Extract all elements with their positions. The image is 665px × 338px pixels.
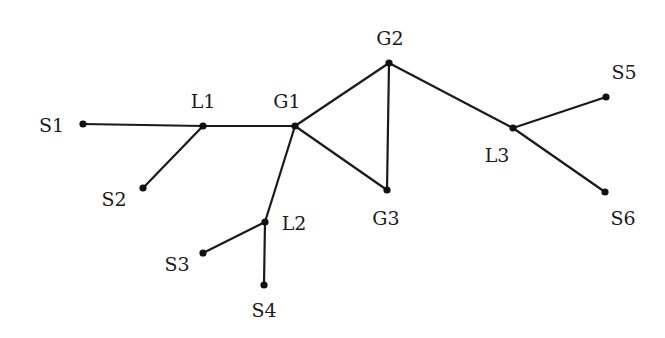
edge-l3-s6 [513, 128, 605, 192]
node-label-g1: G1 [273, 90, 300, 112]
edge-g2-g3 [387, 63, 389, 190]
edges-layer [83, 63, 606, 285]
node-s5 [602, 93, 609, 100]
node-label-s6: S6 [610, 207, 635, 229]
node-l1 [199, 122, 206, 129]
node-l2 [261, 218, 268, 225]
edge-l2-s4 [264, 222, 265, 285]
node-s4 [260, 281, 267, 288]
node-label-l3: L3 [485, 144, 510, 166]
node-label-s1: S1 [39, 114, 64, 136]
node-s6 [601, 188, 608, 195]
node-s3 [199, 249, 206, 256]
edge-s1-l1 [83, 124, 203, 126]
node-label-s2: S2 [101, 188, 126, 210]
node-label-l2: L2 [282, 212, 307, 234]
node-label-l1: L1 [191, 90, 216, 112]
node-s2 [139, 184, 146, 191]
edge-g1-l2 [265, 126, 295, 222]
edge-g1-g2 [295, 63, 389, 126]
node-g1 [291, 122, 298, 129]
node-s1 [79, 120, 86, 127]
node-label-g3: G3 [372, 207, 399, 229]
node-l3 [509, 124, 516, 131]
node-label-s4: S4 [251, 299, 276, 321]
node-g2 [385, 59, 392, 66]
node-label-g2: G2 [376, 27, 403, 49]
node-label-s3: S3 [164, 253, 189, 275]
edge-g2-l3 [389, 63, 513, 128]
labels-layer: S1L1G1S2L2S3S4G2G3L3S5S6 [39, 27, 637, 321]
edge-l3-s5 [513, 97, 606, 128]
network-diagram: S1L1G1S2L2S3S4G2G3L3S5S6 [0, 0, 665, 338]
edge-l1-s2 [143, 126, 203, 188]
edge-g1-g3 [295, 126, 387, 190]
node-label-s5: S5 [611, 61, 636, 83]
node-g3 [383, 186, 390, 193]
edge-l2-s3 [203, 222, 265, 253]
